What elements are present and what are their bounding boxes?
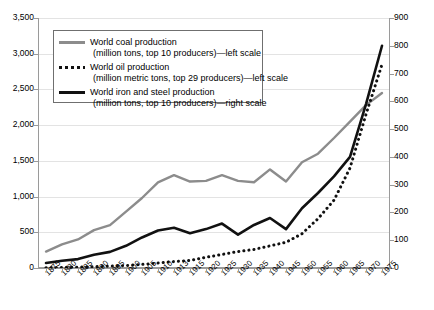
legend-item-oil: World oil production (million metric ton… [59, 62, 257, 83]
x-axis-tickmark [142, 268, 143, 272]
right-axis-tickmark [390, 212, 394, 213]
left-axis-tick-label: 3,000 [0, 49, 34, 58]
right-axis-tickmark [390, 129, 394, 130]
left-axis-tick-label: 0 [0, 263, 34, 272]
right-axis-tickmark [390, 101, 394, 102]
x-axis-tickmark [302, 268, 303, 272]
x-axis-tickmark [286, 268, 287, 272]
legend-iron-detail: (million tons, top 10 producers)—right s… [90, 98, 257, 109]
right-axis-tick-label: 800 [394, 41, 432, 50]
legend-oil-detail: (million metric tons, top 29 producers)—… [90, 73, 257, 84]
x-axis-tickmark [254, 268, 255, 272]
x-axis-tickmark [190, 268, 191, 272]
right-axis-tick-label: 100 [394, 235, 432, 244]
x-axis-tickmark [206, 268, 207, 272]
left-axis-tick-label: 1,500 [0, 156, 34, 165]
right-axis-tickmark [390, 240, 394, 241]
x-axis-tickmark [382, 268, 383, 272]
legend-oil-title: World oil production [90, 62, 257, 73]
right-axis-tick-label: 500 [394, 124, 432, 133]
x-axis-tickmark [270, 268, 271, 272]
x-axis-tickmark [366, 268, 367, 272]
right-axis-tick-label: 700 [394, 69, 432, 78]
x-axis-tickmark [126, 268, 127, 272]
right-axis-tickmark [390, 157, 394, 158]
x-axis-tickmark [350, 268, 351, 272]
right-axis-tick-label: 400 [394, 152, 432, 161]
right-axis-tick-label: 900 [394, 13, 432, 22]
right-axis-tick-label: 200 [394, 207, 432, 216]
x-axis-tickmark [334, 268, 335, 272]
legend-iron-title: World iron and steel production [90, 87, 257, 98]
x-axis-tickmark [238, 268, 239, 272]
x-axis-tickmark [46, 268, 47, 272]
x-axis-tickmark [174, 268, 175, 272]
legend-coal-title: World coal production [90, 37, 257, 48]
coal-line-swatch-icon [59, 41, 85, 44]
legend-item-coal: World coal production (million tons, top… [59, 37, 257, 58]
left-axis-tickmark [34, 268, 38, 269]
x-axis-tickmark [78, 268, 79, 272]
left-axis-tick-label: 2,500 [0, 84, 34, 93]
left-axis-tick-label: 1,000 [0, 192, 34, 201]
right-axis-tick-label: 300 [394, 180, 432, 189]
right-axis-tickmark [390, 18, 394, 19]
x-axis-tickmark [158, 268, 159, 272]
legend-coal-detail: (million tons, top 10 producers)—left sc… [90, 48, 257, 59]
right-axis-tick-label: 0 [394, 263, 432, 272]
oil-dotted-swatch-icon [59, 66, 85, 69]
right-axis-tickmark [390, 185, 394, 186]
x-axis-tickmark [222, 268, 223, 272]
x-axis-tickmark [62, 268, 63, 272]
left-axis-tick-label: 2,000 [0, 120, 34, 129]
right-axis-tickmark [390, 74, 394, 75]
right-axis-tick-label: 600 [394, 96, 432, 105]
series-line-world-coal-production [46, 93, 382, 252]
legend-item-iron: World iron and steel production (million… [59, 87, 257, 108]
x-axis-tickmark [94, 268, 95, 272]
left-axis-tick-label: 500 [0, 227, 34, 236]
x-axis-tickmark [110, 268, 111, 272]
iron-line-swatch-icon [59, 91, 85, 94]
left-axis-tick-label: 3,500 [0, 13, 34, 22]
legend: World coal production (million tons, top… [53, 30, 263, 103]
x-axis-tickmark [318, 268, 319, 272]
right-axis-tickmark [390, 46, 394, 47]
chart-container: 05001,0001,5002,0002,5003,0003,500 01002… [0, 0, 434, 310]
